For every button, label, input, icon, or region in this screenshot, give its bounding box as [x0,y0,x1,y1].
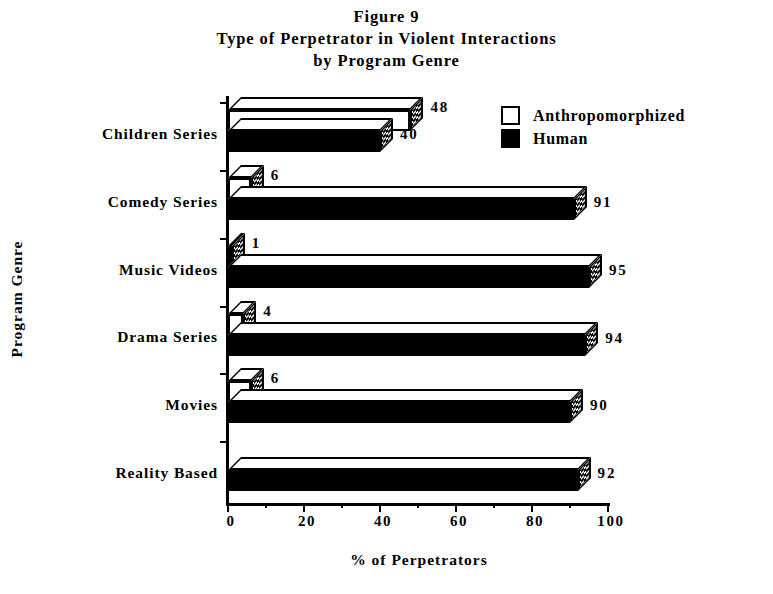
y-axis-line [226,96,229,506]
y-axis-tick [220,170,228,172]
y-axis-label: Program Genre [8,219,26,379]
y-axis-category-label: Reality Based [115,464,218,482]
x-axis-tick-minor [569,503,571,508]
bar-human[interactable] [228,199,574,220]
x-axis-tick-label: 100 [597,513,624,530]
bar-human[interactable] [228,267,589,288]
bar-value-label-human: 92 [598,465,617,482]
bar-value-label-anthropomorphized: 48 [430,99,449,116]
x-axis-tick-major [455,503,457,512]
bar-value-label-human: 95 [609,261,628,278]
legend-label-human: Human [533,130,588,148]
bar-top-face-human [228,186,587,199]
bar-value-label-anthropomorphized: 6 [271,166,280,183]
bar-value-label-anthropomorphized: 1 [252,234,261,251]
bar-top-face-human [228,254,602,267]
bar-value-label-human: 40 [400,126,419,143]
y-axis-tick [220,102,228,104]
y-axis-tick [220,373,228,375]
x-axis-tick-label: 80 [526,513,544,530]
bar-human[interactable] [228,402,570,423]
x-axis-tick-label: 60 [450,513,468,530]
y-axis-tick [220,441,228,443]
y-axis-category-label: Drama Series [117,328,218,346]
legend-swatch-human-icon [501,129,520,148]
x-axis-tick-label: 0 [226,513,235,530]
y-axis-category-label: Children Series [102,125,218,143]
x-axis-tick-major [531,503,533,512]
bar-value-label-human: 94 [605,329,624,346]
bar-value-label-human: 91 [594,193,613,210]
x-axis-label: % of Perpetrators [228,551,610,569]
y-axis-category-label: Comedy Series [108,193,218,211]
bar-value-label-human: 90 [590,397,609,414]
x-axis-tick-minor [265,503,267,508]
y-axis-category-label: Movies [165,396,218,414]
bar-top-face-human [228,457,591,470]
x-axis-tick-major [607,503,609,512]
legend-item-anthropomorphized: Anthropomorphized [501,104,685,127]
chart-legend: Anthropomorphized Human [501,104,685,150]
bar-top-face-human [228,389,583,402]
legend-swatch-anthropomorphized-icon [501,106,520,125]
x-axis-tick-major [303,503,305,512]
y-axis-category-label: Music Videos [119,261,218,279]
x-axis-tick-major [227,503,229,512]
x-axis-tick-minor [417,503,419,508]
bar-value-label-anthropomorphized: 4 [263,302,272,319]
x-axis-line [228,503,610,506]
bar-top-face-anthropomorphized [228,97,423,110]
bar-chart: Program Genre % of Perpetrators 02040608… [0,0,773,594]
legend-item-human: Human [501,127,685,150]
x-axis-tick-minor [493,503,495,508]
y-axis-tick [220,238,228,240]
bar-value-label-anthropomorphized: 6 [271,370,280,387]
x-axis-tick-minor [341,503,343,508]
x-axis-tick-label: 20 [298,513,316,530]
bar-human[interactable] [228,335,585,356]
x-axis-tick-label: 40 [374,513,392,530]
legend-label-anthropomorphized: Anthropomorphized [533,107,685,125]
bar-human[interactable] [228,131,380,152]
x-axis-tick-major [379,503,381,512]
bar-top-face-human [228,118,393,131]
y-axis-tick [220,306,228,308]
bar-top-face-human [228,322,598,335]
bar-human[interactable] [228,470,578,491]
